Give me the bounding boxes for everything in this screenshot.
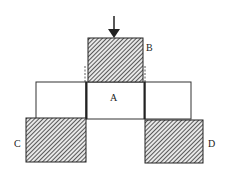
label-b: B (146, 42, 153, 53)
block-b (88, 38, 143, 82)
block-diagram: B A C D (0, 0, 232, 171)
right-white-block (145, 82, 191, 119)
label-d: D (208, 138, 215, 149)
label-c: C (14, 138, 21, 149)
block-d (145, 120, 203, 163)
label-a: A (110, 92, 118, 103)
block-c (26, 118, 86, 162)
down-arrow-icon (108, 16, 120, 38)
left-white-block (36, 82, 86, 119)
